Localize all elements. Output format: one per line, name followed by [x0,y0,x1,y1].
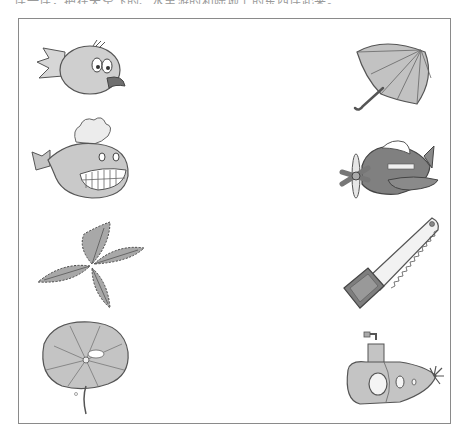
whale-icon[interactable] [28,112,138,204]
lotus-leaf-icon[interactable] [34,316,134,416]
bird-icon[interactable] [35,40,130,102]
umbrella-icon[interactable] [345,38,435,118]
saw-icon[interactable] [340,214,440,309]
airplane-icon[interactable] [338,136,443,208]
submarine-icon[interactable] [340,330,445,410]
leaf-icon[interactable] [32,222,147,312]
instruction-text: 连一连，把在天空飞的、水里游的和陆地上的东西连起来。 [14,0,394,4]
